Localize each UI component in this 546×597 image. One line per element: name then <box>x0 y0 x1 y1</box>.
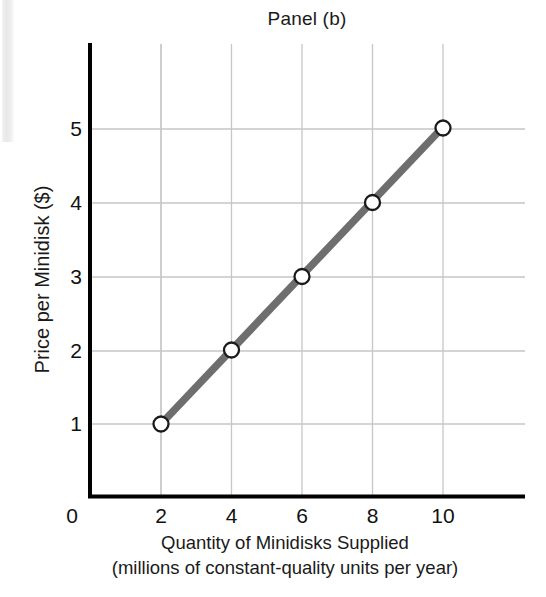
ytick-label-2: 2 <box>52 339 82 363</box>
xtick-label-8: 8 <box>353 504 393 528</box>
ytick-label-5: 5 <box>52 117 82 141</box>
xtick-label-0: 0 <box>52 504 92 528</box>
data-point-2-1 <box>154 417 169 432</box>
ytick-label-4: 4 <box>52 191 82 215</box>
data-point-6-3 <box>295 269 310 284</box>
xtick-label-4: 4 <box>212 504 252 528</box>
data-point-8-4 <box>365 195 380 210</box>
xtick-label-2: 2 <box>141 504 181 528</box>
ytick-label-3: 3 <box>52 265 82 289</box>
figure-panel-b: Panel (b) <box>0 0 546 597</box>
xtick-label-10: 10 <box>423 504 463 528</box>
x-axis-label: Quantity of Minidisks Supplied (millions… <box>0 530 546 580</box>
data-point-10-5 <box>436 121 451 136</box>
xtick-label-6: 6 <box>282 504 322 528</box>
x-axis-label-line1: Quantity of Minidisks Supplied <box>12 530 546 555</box>
ytick-label-1: 1 <box>52 412 82 436</box>
x-axis-label-line2: (millions of constant-quality units per … <box>12 555 546 580</box>
data-point-4-2 <box>224 343 239 358</box>
